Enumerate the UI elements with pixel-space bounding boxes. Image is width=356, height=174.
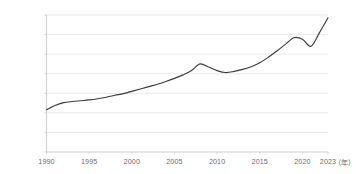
x-axis-unit-label: （年） <box>334 157 355 167</box>
x-tick-label: 2000 <box>124 157 140 166</box>
line-chart: 0500000100000015000002000000250000030000… <box>0 0 356 174</box>
x-tick-label: 2010 <box>209 157 225 166</box>
x-tick-label: 2015 <box>252 157 268 166</box>
x-axis-tick-labels: 19901995200020052010201520202023 <box>0 0 356 174</box>
x-tick-label: 2020 <box>294 157 310 166</box>
x-tick-label: 1995 <box>81 157 97 166</box>
x-tick-label: 2005 <box>166 157 182 166</box>
x-tick-label: 1990 <box>38 157 54 166</box>
